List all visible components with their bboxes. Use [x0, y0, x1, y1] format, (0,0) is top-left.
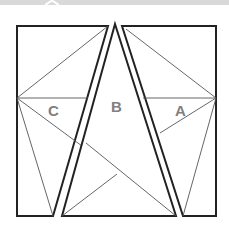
dissection-diagram: C B A — [0, 0, 229, 234]
label-b: B — [111, 98, 122, 115]
label-a: A — [175, 102, 186, 119]
label-c: C — [48, 102, 59, 119]
